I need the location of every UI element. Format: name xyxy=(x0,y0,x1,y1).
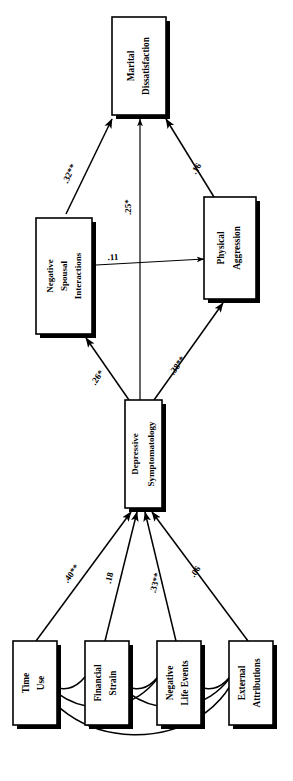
box-negative-life-events: Negative Life Events xyxy=(157,641,205,729)
box-label-nle-line2: Life Events xyxy=(180,660,190,706)
box-external-attributions: External Attributions xyxy=(229,641,277,729)
box-label-ea-line2: Attributions xyxy=(252,658,262,707)
coef-label-tu-to-ds: .40** xyxy=(61,562,81,585)
box-physical-aggression: Physical Aggression xyxy=(204,197,260,303)
box-label-nsi-line3: Interactions xyxy=(73,252,83,299)
diagram-canvas: Marital Dissatisfaction Physical Aggress… xyxy=(0,0,293,781)
coef-label-nsi-to-pa: .11 xyxy=(107,252,119,263)
box-negative-spousal-interactions: Negative Spousal Interactions xyxy=(36,218,96,338)
box-label-marital-line2: Dissatisfaction xyxy=(141,36,151,95)
box-time-use: Time Use xyxy=(13,641,61,729)
box-label-financial-line1: Financial xyxy=(93,664,103,702)
box-depressive-symptomatology: Depressive Symptomatology xyxy=(125,400,166,512)
box-label-time-use-line1: Time xyxy=(21,673,31,694)
box-label-time-use-line2: Use xyxy=(36,676,46,690)
box-financial-strain: Financial Strain xyxy=(85,641,133,729)
path-arrow-pa-to-md xyxy=(166,119,214,197)
box-label-physical-line2: Aggression xyxy=(232,225,242,270)
box-label-nsi-line1: Negative xyxy=(45,259,55,293)
coef-label-ds-to-nsi: .26* xyxy=(89,368,107,387)
box-marital-dissatisfaction: Marital Dissatisfaction xyxy=(112,17,170,119)
path-arrow-ds-to-pa xyxy=(154,303,223,400)
box-label-marital-line1: Marital xyxy=(126,50,136,81)
box-label-ea-line1: External xyxy=(237,665,247,700)
coef-label-pa-to-md: .16 xyxy=(189,161,204,176)
coef-label-nsi-to-md: .32** xyxy=(60,162,78,185)
box-label-financial-line2: Strain xyxy=(108,670,118,696)
coef-label-nle-to-ds: .33** xyxy=(148,571,163,594)
path-model-diagram: Marital Dissatisfaction Physical Aggress… xyxy=(0,0,293,781)
coef-label-fs-to-ds: .18 xyxy=(103,571,116,585)
coef-label-ds-to-md: .25* xyxy=(123,199,133,215)
box-label-nsi-line2: Spousal xyxy=(59,260,69,291)
path-arrow-ds-to-nsi xyxy=(86,338,129,400)
box-label-ds-line1: Depressive xyxy=(130,433,140,474)
box-label-ds-line2: Symptomatology xyxy=(146,421,156,486)
box-label-nle-line1: Negative xyxy=(165,666,175,701)
path-arrow-tu-to-ds xyxy=(36,512,131,641)
path-arrow-ea-to-ds xyxy=(152,512,248,641)
box-label-physical-line1: Physical xyxy=(216,231,226,264)
